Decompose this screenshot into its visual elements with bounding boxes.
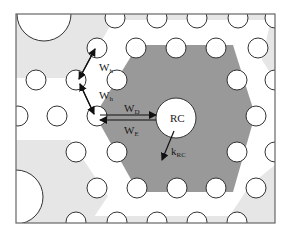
lattice-diagram: Wh Wh WD WE RC kRC bbox=[0, 0, 290, 242]
rc-label: RC bbox=[170, 112, 185, 124]
